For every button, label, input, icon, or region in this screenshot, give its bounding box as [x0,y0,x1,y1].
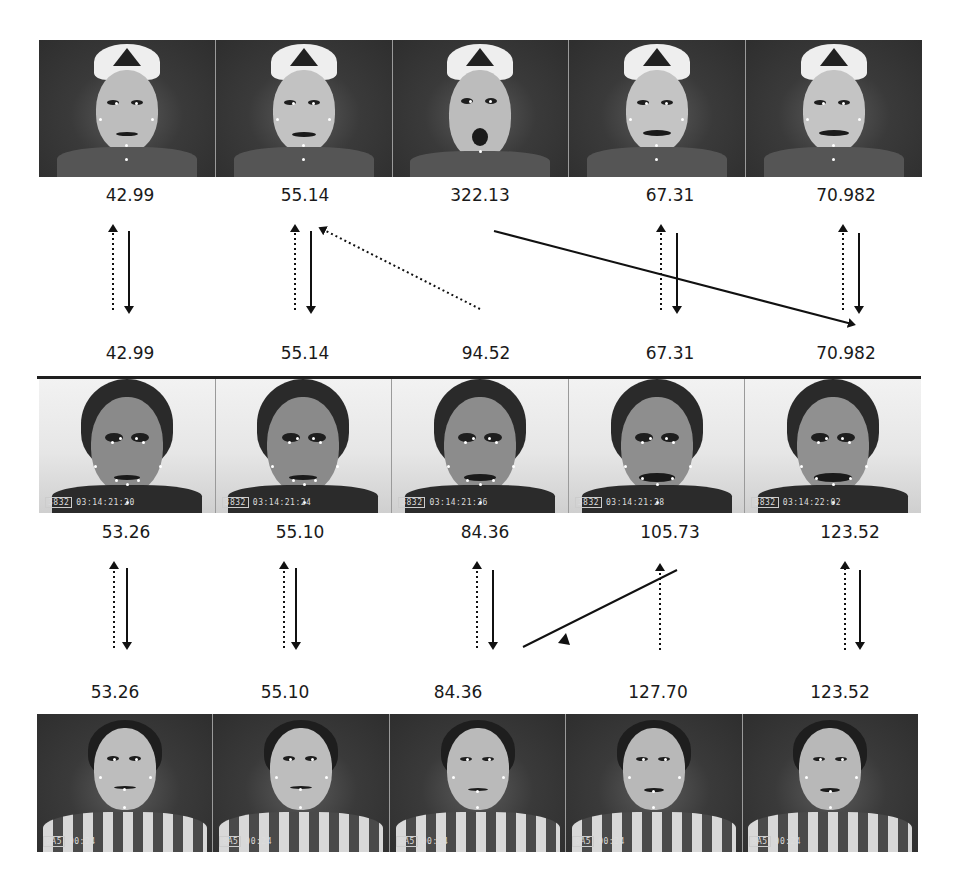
solid-diagonal-line [523,570,677,647]
solid-diagonal-arrow [494,231,852,324]
mapping-arrows [0,0,958,881]
dotted-diagonal-arrow [322,229,480,309]
arrowhead [558,633,570,645]
